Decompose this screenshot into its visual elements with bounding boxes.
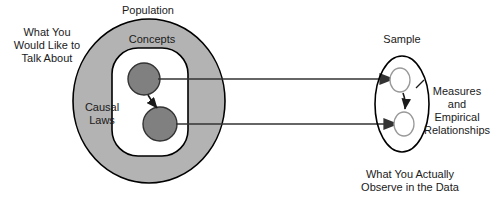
diagram-canvas: What You Would Like to Talk About Popula… bbox=[0, 0, 494, 202]
label-measures-and-empirical-relationships: Measures and Empirical Relationships bbox=[420, 85, 494, 137]
concept-node-lower bbox=[143, 107, 177, 141]
label-causal-laws: Causal Laws bbox=[74, 101, 130, 127]
sample-node-upper bbox=[390, 68, 410, 92]
label-sample: Sample bbox=[372, 33, 432, 46]
sample-node-lower bbox=[394, 112, 414, 136]
empirical-arrow-internal-icon bbox=[403, 93, 405, 109]
label-what-you-actually-observe-in-the-data: What You Actually Observe in the Data bbox=[340, 168, 480, 194]
concept-node-upper bbox=[128, 63, 160, 95]
label-what-you-would-like-to-talk-about: What You Would Like to Talk About bbox=[4, 26, 90, 65]
label-concepts: Concepts bbox=[116, 33, 188, 46]
label-population: Population bbox=[108, 4, 188, 17]
